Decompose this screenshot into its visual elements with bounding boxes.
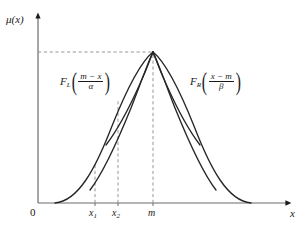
inner-right-branch [153,52,200,145]
left-formula-numerator: m − x [78,72,103,81]
left-formula-denominator: α [86,82,95,91]
tick-label-x1-subscript: 1 [93,212,97,220]
right-formula-close-paren: ) [236,74,241,90]
right-formula-open-paren: ( [202,74,207,90]
right-formula-function: FR [190,75,201,89]
left-formula-open-paren: ( [71,74,76,90]
origin-label: 0 [30,207,36,218]
tick-label-x1: x1 [89,208,97,220]
left-formula-function: FL [60,75,71,89]
inner-left-branch [106,52,153,145]
right-formula-subscript: R [197,81,201,89]
left-branch-formula: FL ( m − x α ) [60,72,111,92]
axis-group [38,18,286,203]
left-formula-close-paren: ) [105,74,110,90]
tick-label-m-base: m [148,207,155,218]
plot-canvas [0,0,308,233]
membership-function-figure: μ(x) x 0 x1 x2 m FL ( m − x α ) FR ( x −… [0,0,308,233]
tick-label-x2: x2 [112,208,120,220]
x-axis-label: x [290,208,295,219]
tick-label-m: m [148,208,155,218]
y-axis-label: μ(x) [6,14,24,25]
right-formula-denominator: β [217,82,225,91]
right-formula-numerator: x − m [209,72,234,81]
tick-label-x2-subscript: 2 [116,212,120,220]
left-formula-fraction: m − x α [78,72,103,92]
right-branch-formula: FR ( x − m β ) [190,72,241,92]
right-formula-fraction: x − m β [209,72,234,92]
left-formula-subscript: L [67,81,71,89]
